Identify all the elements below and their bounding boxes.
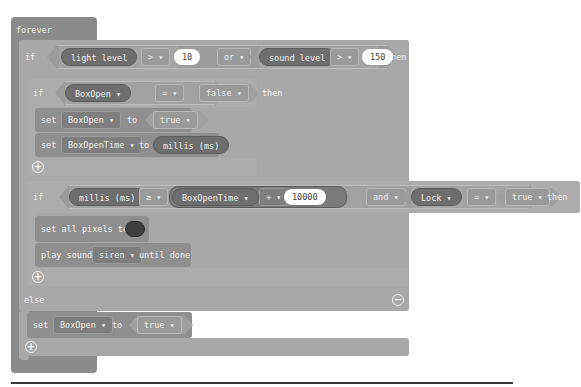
- eq-dropdown[interactable]: = ▾: [467, 188, 496, 206]
- set-all-pixels-block[interactable]: set all pixels to: [35, 216, 149, 242]
- then-label-1: then: [386, 51, 406, 63]
- then-label-2: then: [262, 87, 282, 99]
- until-done-label: until done: [139, 249, 190, 261]
- op-dropdown-3[interactable]: = ▾: [155, 84, 184, 102]
- op-dropdown-2[interactable]: > ▾: [330, 48, 359, 66]
- if-footer-2: +: [27, 158, 257, 176]
- true-dropdown-3[interactable]: true ▾: [137, 316, 182, 334]
- false-dropdown[interactable]: false ▾: [199, 84, 249, 102]
- if-footer-3: +: [27, 268, 409, 286]
- gte-dropdown[interactable]: ≥ ▾: [139, 188, 168, 206]
- play-sound-label: play sound: [41, 249, 92, 261]
- else-label: else: [24, 294, 44, 306]
- minus-icon[interactable]: −: [392, 294, 404, 306]
- lock-variable[interactable]: Lock ▾: [411, 188, 462, 206]
- workspace-divider: [11, 382, 513, 384]
- plus-icon[interactable]: +: [32, 271, 44, 283]
- value-input-10000[interactable]: 10000: [284, 189, 326, 205]
- play-sound-block[interactable]: play sound siren ▾ until done: [35, 243, 191, 267]
- op-dropdown-1[interactable]: > ▾: [141, 48, 170, 66]
- boxopentime-var-dropdown[interactable]: BoxOpenTime ▾: [61, 136, 142, 154]
- if-label-1: if: [25, 51, 35, 63]
- boxopen-var-dropdown[interactable]: BoxOpen ▾: [53, 316, 113, 334]
- set-label: set: [33, 319, 48, 331]
- and-dropdown[interactable]: and ▾: [366, 188, 406, 206]
- if-header-1: if light level > ▾ 10 or ▾ sound level >…: [19, 40, 409, 74]
- to-label: to: [112, 319, 122, 331]
- boxopentime-variable[interactable]: BoxOpenTime ▾: [172, 188, 259, 206]
- color-picker[interactable]: [125, 221, 145, 237]
- if-footer-1: +: [19, 338, 409, 356]
- true-dropdown[interactable]: true ▾: [153, 111, 198, 129]
- else-set-boxopen-block[interactable]: set BoxOpen ▾ to true ▾: [27, 312, 192, 338]
- plus-icon[interactable]: +: [25, 341, 37, 353]
- if-label-2: if: [33, 87, 43, 99]
- siren-dropdown[interactable]: siren ▾: [92, 246, 142, 264]
- boxopen-var-dropdown[interactable]: BoxOpen ▾: [61, 111, 121, 129]
- forever-label: forever: [16, 24, 52, 36]
- if-block-2[interactable]: if BoxOpen ▾ = ▾ false ▾ then: [27, 79, 257, 107]
- true-dropdown-2[interactable]: true ▾: [505, 188, 550, 206]
- if-label-3: if: [33, 191, 43, 203]
- value-input-1[interactable]: 10: [174, 49, 200, 65]
- else-row: else −: [19, 289, 409, 311]
- set-all-pixels-label: set all pixels to: [41, 223, 128, 235]
- then-label-3: then: [547, 191, 567, 203]
- boxopen-variable[interactable]: BoxOpen ▾: [65, 84, 131, 102]
- sound-level-reporter[interactable]: sound level: [259, 48, 335, 66]
- if-block-3[interactable]: if millis (ms) ≥ ▾ BoxOpenTime ▾ + ▾ 100…: [27, 181, 580, 213]
- millis-reporter[interactable]: millis (ms): [153, 136, 229, 154]
- set-label: set: [41, 114, 56, 126]
- or-dropdown[interactable]: or ▾: [217, 48, 251, 66]
- set-boxopen-block[interactable]: set BoxOpen ▾ to true ▾: [35, 108, 192, 132]
- set-label: set: [41, 139, 56, 151]
- light-level-reporter[interactable]: light level: [61, 48, 137, 66]
- set-boxopentime-block[interactable]: set BoxOpenTime ▾ to millis (ms): [35, 133, 219, 157]
- to-label: to: [139, 139, 149, 151]
- millis-reporter-2[interactable]: millis (ms): [69, 188, 145, 206]
- plus-icon[interactable]: +: [32, 161, 44, 173]
- to-label: to: [127, 114, 137, 126]
